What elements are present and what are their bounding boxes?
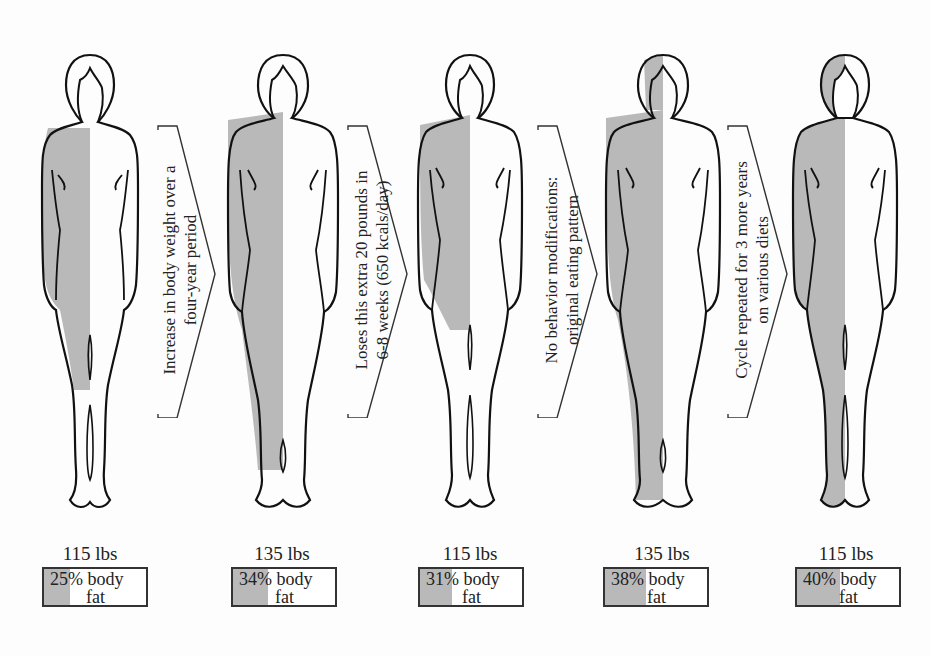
arrow-label-3: No behavior modifications:original eatin… (541, 126, 583, 414)
woman-silhouette-icon (218, 0, 348, 510)
transition-arrow-3: No behavior modifications:original eatin… (535, 124, 599, 418)
body-figure-5 (785, 0, 905, 510)
arrow-label-4: Cycle repeated for 3 more yearson variou… (731, 126, 773, 414)
body-fat-badge-3: 31% bodyfat (418, 567, 524, 607)
body-figure-4 (598, 0, 728, 510)
transition-arrow-2: Loses this extra 20 pounds in6-8 weeks (… (345, 124, 409, 418)
arrow-label-2: Loses this extra 20 pounds in6-8 weeks (… (351, 126, 393, 414)
woman-silhouette-icon (785, 0, 905, 510)
body-fat-badge-1: 25% bodyfat (42, 567, 148, 607)
weight-label-1: 115 lbs (30, 543, 150, 565)
weight-label-2: 135 lbs (222, 543, 342, 565)
transition-arrow-1: Increase in body weight over afour-year … (155, 124, 217, 418)
body-figure-1 (30, 0, 150, 510)
body-fat-badge-4: 38% bodyfat (603, 567, 709, 607)
body-figure-3 (410, 0, 530, 510)
body-figure-2 (218, 0, 348, 510)
woman-silhouette-icon (410, 0, 530, 510)
body-fat-badge-2: 34% bodyfat (231, 567, 337, 607)
body-fat-badge-5: 40% bodyfat (795, 567, 901, 607)
transition-arrow-4: Cycle repeated for 3 more yearson variou… (725, 124, 789, 418)
weight-label-4: 135 lbs (602, 543, 722, 565)
woman-silhouette-icon (598, 0, 728, 510)
weight-label-3: 115 lbs (410, 543, 530, 565)
woman-silhouette-icon (30, 0, 150, 510)
weight-label-5: 115 lbs (786, 543, 906, 565)
arrow-label-1: Increase in body weight over afour-year … (159, 126, 201, 414)
